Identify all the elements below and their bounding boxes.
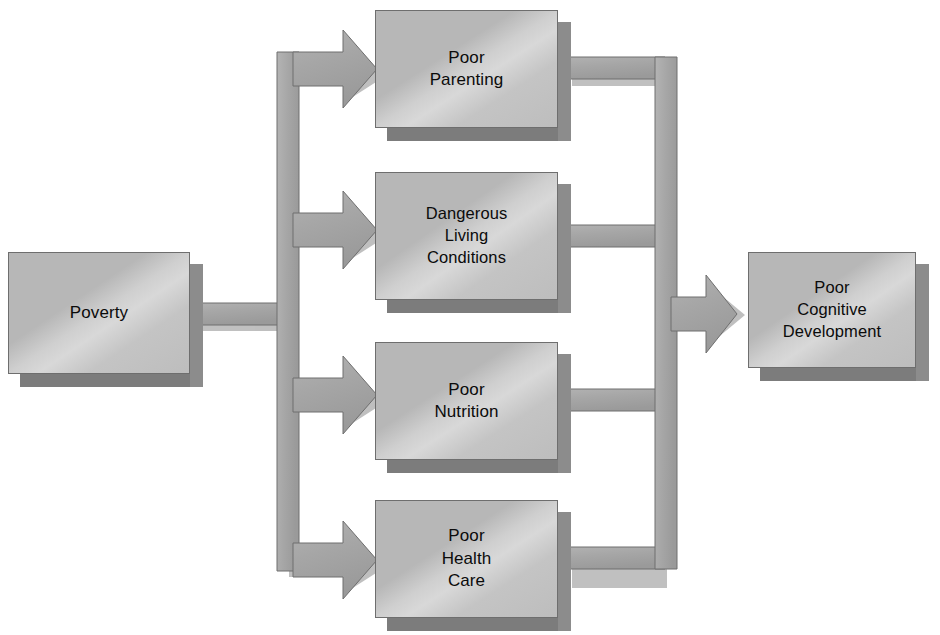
connector-poor-health-care-to-trunk [560,547,665,569]
node-poor-nutrition-label: Poor Nutrition [434,379,498,424]
node-poor-health-care-shadow-right [558,512,571,631]
node-poor-parenting-shadow-right [558,22,571,141]
node-poor-health-care-label: Poor Health Care [442,525,492,592]
arrow-to-poor-nutrition [293,356,377,434]
node-poor-cognitive-development-shadow-bottom [760,368,928,381]
arrow-to-dangerous-living-conditions [293,191,377,269]
node-poor-health-care-face[interactable]: Poor Health Care [375,500,558,618]
node-poor-cognitive-development-shadow-right [916,264,929,381]
connector-dangerous-living-conditions-to-trunk [560,225,665,247]
node-poor-nutrition-shadow-right [558,354,571,473]
node-dangerous-living-conditions[interactable]: Dangerous Living Conditions [375,172,572,314]
node-dangerous-living-conditions-shadow-right [558,184,571,313]
inbound-connector-group [186,30,387,599]
node-poor-health-care[interactable]: Poor Health Care [375,500,572,632]
node-poor-cognitive-development-label: Poor Cognitive Development [783,277,881,342]
node-poor-parenting[interactable]: Poor Parenting [375,10,572,142]
connector-left-trunk [277,52,299,571]
node-poverty-shadow-bottom [20,374,202,387]
outbound-connector-group [560,57,745,588]
node-poor-cognitive-development-face[interactable]: Poor Cognitive Development [748,252,916,368]
node-dangerous-living-conditions-face[interactable]: Dangerous Living Conditions [375,172,558,300]
arrow-to-poor-health-care [293,521,377,599]
node-poor-parenting-face[interactable]: Poor Parenting [375,10,558,128]
connector-poor-nutrition-to-trunk [560,389,665,411]
node-poor-health-care-shadow-bottom [387,618,570,631]
node-poor-nutrition[interactable]: Poor Nutrition [375,342,572,474]
node-poverty-shadow-right [190,264,203,387]
node-poor-nutrition-face[interactable]: Poor Nutrition [375,342,558,460]
node-dangerous-living-conditions-shadow-bottom [387,300,570,313]
node-dangerous-living-conditions-label: Dangerous Living Conditions [426,203,508,268]
node-poor-parenting-shadow-bottom [387,128,570,141]
connector-poor-parenting-to-trunk [560,57,665,79]
diagram-canvas: Poverty Poor Parenting Dangerous Living … [0,0,940,635]
node-poverty[interactable]: Poverty [8,252,204,388]
node-poor-nutrition-shadow-bottom [387,460,570,473]
node-poverty-label: Poverty [70,302,128,324]
node-poverty-face[interactable]: Poverty [8,252,190,374]
node-poor-cognitive-development[interactable]: Poor Cognitive Development [748,252,930,382]
node-poor-parenting-label: Poor Parenting [430,47,504,92]
arrow-to-poor-parenting [293,30,377,108]
arrow-to-poor-cognitive-development [671,275,737,353]
